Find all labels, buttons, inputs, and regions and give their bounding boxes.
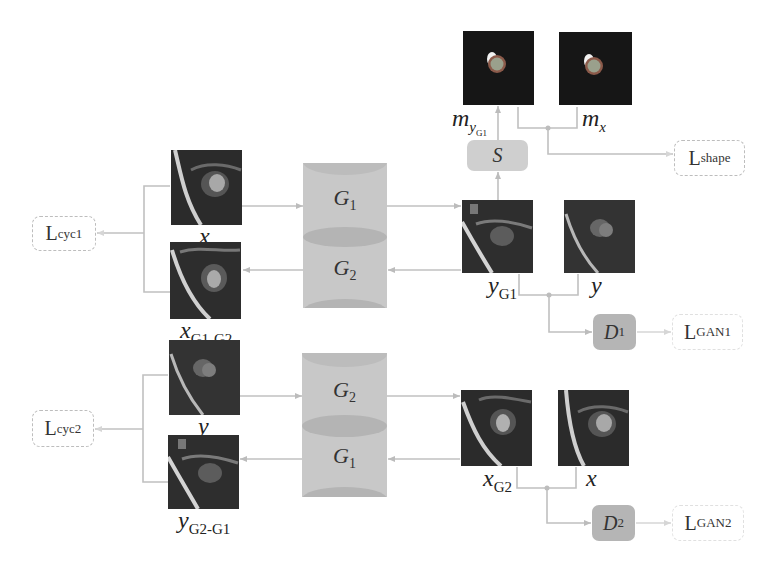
loss-cyc2: Lcyc2	[32, 410, 94, 447]
loss-GAN2: LGAN2	[672, 505, 744, 541]
mri-image-y-top	[564, 200, 635, 273]
discriminator-D2: D2	[592, 505, 635, 541]
connection-wires	[0, 0, 774, 571]
mri-image-x-G2	[461, 390, 532, 466]
generator-G1-label: G1	[303, 185, 387, 214]
mri-image-y-G1	[462, 200, 533, 273]
segmentation-mask-icon	[559, 32, 632, 105]
label-y-G2-G1: yG2-G1	[178, 508, 230, 537]
segmentation-mask-icon	[463, 31, 534, 105]
generator-G1-label: G1	[302, 443, 387, 472]
mri-image-y-bottom	[169, 340, 240, 415]
label-y-top: y	[591, 273, 602, 297]
generator-G2-label: G2	[302, 377, 387, 406]
mask-image-m-x	[559, 32, 632, 105]
label-x-bottom: x	[586, 466, 597, 490]
loss-shape: Lshape	[674, 140, 745, 176]
mri-image-x	[171, 150, 242, 225]
generator-G2-label: G2	[303, 255, 387, 284]
mri-image-y-G2-G1	[168, 435, 239, 509]
discriminator-D1: D1	[593, 314, 636, 350]
label-m-x: mx	[582, 106, 606, 135]
loss-cyc1: Lcyc1	[32, 216, 96, 251]
label-y-G1: yG1	[488, 273, 517, 302]
label-m-yG1: myG1	[452, 106, 487, 138]
loss-GAN1: LGAN1	[672, 314, 743, 350]
mri-image-x-G1-G2	[170, 242, 241, 319]
mask-image-m-yG1	[463, 31, 534, 105]
generator-block-G1-G2: G1 G2	[303, 163, 387, 308]
mri-image-x-bottom	[558, 390, 629, 466]
generator-block-G2-G1: G2 G1	[302, 353, 387, 497]
segmenter-S: S	[467, 140, 528, 171]
label-x-G2: xG2	[483, 466, 512, 495]
